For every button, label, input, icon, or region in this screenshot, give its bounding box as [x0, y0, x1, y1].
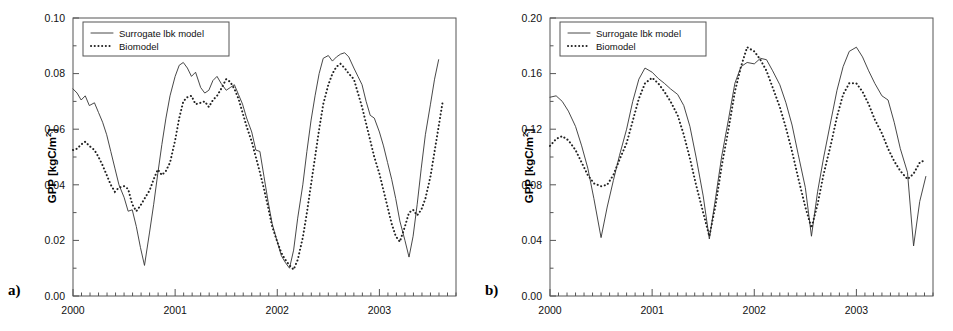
y-tick-label: 0.00	[522, 290, 543, 302]
y-tick-label: 0.08	[522, 179, 543, 191]
y-tick-label: 0.08	[45, 67, 66, 79]
series-biomodel	[73, 64, 443, 270]
legend-label-surrogate: Surrogate lbk model	[119, 28, 204, 39]
x-tick-label: 2002	[266, 304, 290, 316]
y-tick-label: 0.04	[522, 234, 543, 246]
y-tick-label: 0.10	[45, 12, 66, 24]
y-tick-label: 0.02	[45, 234, 66, 246]
y-tick-label: 0.20	[522, 12, 543, 24]
figure-container: GPP [kgC/m2] a) 0.000.020.040.060.080.10…	[0, 0, 953, 331]
y-tick-label: 0.00	[45, 290, 66, 302]
plot-frame	[73, 18, 456, 296]
y-tick-label: 0.16	[522, 67, 543, 79]
x-tick-label: 2000	[61, 304, 85, 316]
x-tick-label: 2003	[368, 304, 392, 316]
y-tick-label: 0.06	[45, 123, 66, 135]
series-surrogate	[550, 47, 926, 246]
legend-label-surrogate: Surrogate lbk model	[596, 28, 681, 39]
chart-panel-a: GPP [kgC/m2] a) 0.000.020.040.060.080.10…	[0, 0, 476, 331]
x-tick-label: 2003	[845, 304, 869, 316]
x-tick-label: 2001	[640, 304, 664, 316]
legend-label-biomodel: Biomodel	[119, 41, 159, 52]
plot-svg-a: 0.000.020.040.060.080.102000200120022003…	[0, 0, 476, 331]
x-tick-label: 2000	[538, 304, 562, 316]
legend-label-biomodel: Biomodel	[596, 41, 636, 52]
chart-panel-b: GPP [kgC/m2] b) 0.000.040.080.120.160.20…	[477, 0, 953, 331]
x-tick-label: 2002	[743, 304, 767, 316]
y-tick-label: 0.04	[45, 179, 66, 191]
x-tick-label: 2001	[163, 304, 187, 316]
plot-frame	[550, 18, 933, 296]
plot-svg-b: 0.000.040.080.120.160.202000200120022003…	[477, 0, 953, 331]
y-tick-label: 0.12	[522, 123, 543, 135]
series-surrogate	[73, 53, 439, 268]
